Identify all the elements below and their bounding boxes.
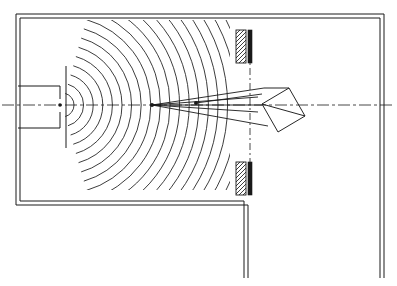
diagram-background (0, 0, 397, 286)
optical-chamber-diagram (0, 0, 397, 286)
diagram-canvas (0, 0, 397, 286)
focal-point-secondary (194, 101, 198, 105)
focal-point-primary (150, 103, 154, 107)
feed-origin-point (58, 103, 62, 107)
